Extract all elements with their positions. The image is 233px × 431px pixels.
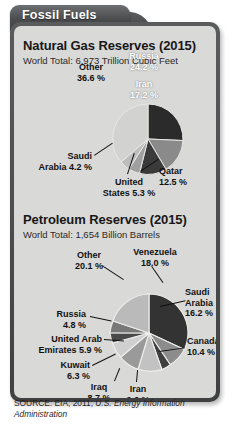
leader-pet-venezuela: [151, 266, 163, 283]
label-ng-saudi-arabia: SaudiArabia 4.2 %: [14, 151, 92, 172]
pie-slice-russia: [148, 104, 183, 141]
label-ng-russia: Russia24.2 %: [122, 51, 166, 72]
label-pet-iraq: Iraq8.7 %: [80, 382, 118, 398]
label-ng-qatar: Qatar12.5 %: [159, 166, 187, 187]
petroleum-title: Petroleum Reserves (2015): [23, 212, 187, 227]
label-pet-russia: Russia4.8 %: [14, 309, 86, 330]
infographic-card: Fossil Fuels Natural Gas Reserves (2015)…: [0, 0, 233, 431]
source-note: SOURCE: EIA, 2011; U.S. Energy Informati…: [14, 398, 226, 420]
source-prefix: SOURCE: EIA, 2011;: [14, 398, 95, 408]
label-ng-iran: Iran17.2 %: [124, 79, 164, 100]
label-pet-iran: Iran9.6 %: [119, 384, 157, 398]
panel-body: Natural Gas Reserves (2015) World Total:…: [14, 26, 216, 398]
label-pet-saudi-arabia: SaudiArabia16.2 %: [185, 287, 213, 319]
tab-label: Fossil Fuels: [22, 8, 97, 22]
label-pet-canada: Canada10.4 %: [187, 336, 216, 357]
natural-gas-title: Natural Gas Reserves (2015): [23, 38, 196, 53]
petroleum-pie-chart: [100, 284, 198, 382]
label-ng-united-states: UnitedStates 5.3 %: [100, 177, 158, 198]
label-pet-uae: United ArabEmirates 5.9 %: [14, 334, 102, 355]
label-pet-venezuela: Venezuela18.0 %: [124, 247, 186, 268]
panel-frame: Natural Gas Reserves (2015) World Total:…: [10, 22, 220, 402]
petroleum-subtitle: World Total: 1,654 Billion Barrels: [23, 229, 160, 240]
leader-pet-other: [101, 265, 123, 280]
label-pet-kuwait: Kuwait6.3 %: [14, 360, 90, 381]
label-ng-other: Other36.6 %: [72, 62, 110, 83]
